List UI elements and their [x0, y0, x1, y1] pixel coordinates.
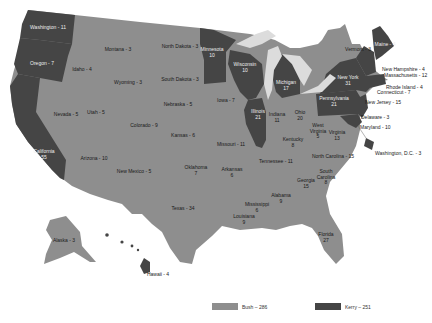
state-hawaii[interactable] [105, 233, 150, 274]
label-new-jersey: New Jersey - 15 [365, 100, 401, 106]
legend-kerry: Kerry – 251 [315, 303, 371, 310]
label-washington: Washington - 11 [30, 25, 66, 31]
label-pennsylvania: Pennsylvania21 [319, 96, 349, 107]
label-virginia: Virginia13 [329, 130, 346, 141]
label-oregon: Oregon - 7 [30, 61, 54, 67]
label-wisconsin: Wisconsin10 [234, 62, 257, 73]
label-wyoming: Wyoming - 3 [114, 80, 142, 86]
label-nevada: Nevada - 5 [54, 112, 78, 118]
label-tennessee: Tennessee - 11 [259, 159, 293, 165]
label-indiana: Indiana11 [269, 112, 285, 123]
label-north-carolina: North Carolina - 15 [312, 154, 354, 160]
label-delaware: Delaware - 3 [361, 115, 389, 121]
state-dc-inset[interactable] [364, 138, 374, 150]
label-oklahoma: Oklahoma7 [185, 165, 208, 176]
label-illinois: Illinois21 [251, 109, 265, 120]
label-new-york: New York31 [337, 75, 358, 86]
label-maine: Maine - 4 [375, 42, 396, 48]
label-alaska: Alaska - 3 [53, 238, 75, 244]
label-hawaii: Hawaii - 4 [147, 272, 169, 278]
label-colorado: Colorado - 9 [130, 123, 158, 129]
label-north-dakota: North Dakota - 3 [162, 44, 199, 50]
label-alabama: Alabama9 [271, 193, 291, 204]
legend-bush: Bush – 286 [212, 303, 267, 310]
label-kentucky: Kentucky8 [283, 137, 304, 148]
label-massachusetts: Massachusetts - 12 [384, 73, 427, 79]
label-michigan: Michigan17 [276, 80, 296, 91]
label-georgia: Georgia15 [297, 178, 315, 189]
legend-label-kerry: Kerry – 251 [345, 304, 371, 310]
legend-label-bush: Bush – 286 [242, 304, 267, 310]
label-mississippi: Mississippi6 [245, 202, 269, 213]
label-south-dakota: South Dakota - 3 [161, 77, 199, 83]
label-south-carolina: SouthCarolina8 [317, 169, 336, 186]
label-florida: Florida27 [318, 232, 333, 243]
label-west-virginia: WestVirginia5 [310, 123, 327, 140]
label-minnesota: Minnesota10 [200, 47, 223, 58]
label-ohio: Ohio20 [295, 110, 306, 121]
label-california: California55 [33, 149, 54, 160]
label-arizona: Arizona - 10 [81, 156, 108, 162]
label-kansas: Kansas - 6 [171, 133, 195, 139]
label-montana: Montana - 3 [105, 47, 132, 53]
label-nebraska: Nebraska - 5 [164, 102, 193, 108]
label-maryland: Maryland - 10 [360, 125, 391, 131]
label-iowa: Iowa - 7 [217, 98, 235, 104]
label-connecticut: Connecticut - 7 [377, 90, 411, 96]
label-idaho: Idaho - 4 [72, 67, 92, 73]
label-utah: Utah - 5 [87, 110, 105, 116]
legend-swatch-kerry [315, 303, 341, 310]
label-new-mexico: New Mexico - 5 [117, 169, 151, 175]
label-louisiana: Louisiana9 [233, 214, 254, 225]
legend-swatch-bush [212, 303, 238, 310]
label-arkansas: Arkansas6 [222, 167, 243, 178]
label-vermont: Vermont - 3 [345, 47, 371, 53]
label-dc: Washington, D.C. - 3 [375, 151, 421, 157]
label-missouri: Missouri - 11 [217, 142, 245, 148]
label-texas: Texas - 34 [171, 206, 194, 212]
